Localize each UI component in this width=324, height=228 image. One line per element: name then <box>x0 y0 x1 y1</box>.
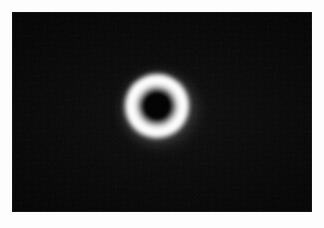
screenshot-root: Near-black photographic frame containing… <box>0 0 324 228</box>
photograph-frame <box>12 12 312 212</box>
dark-field-background <box>12 12 312 212</box>
